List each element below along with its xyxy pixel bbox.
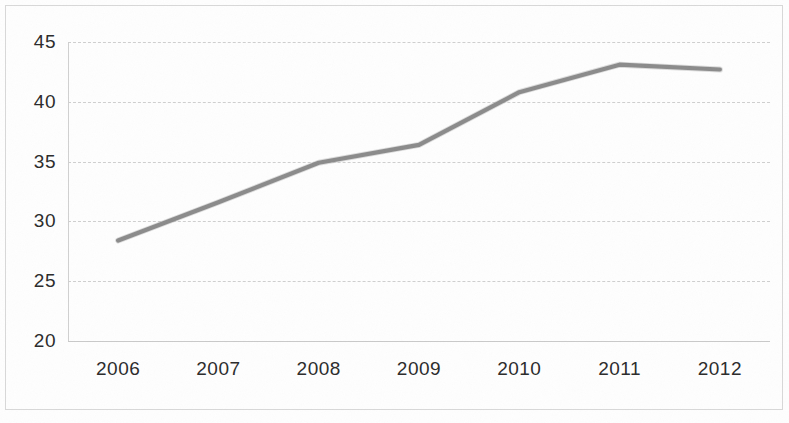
x-tick-label-2012: 2012	[675, 358, 765, 380]
x-tick-label-2010: 2010	[474, 358, 564, 380]
x-tick-label-2006: 2006	[73, 358, 163, 380]
y-axis-labels: 202530354045	[0, 0, 56, 423]
x-tick-label-2009: 2009	[374, 358, 464, 380]
series-line	[118, 65, 720, 241]
y-tick-label-45: 45	[10, 31, 56, 53]
x-tick-label-2007: 2007	[173, 358, 263, 380]
y-tick-label-30: 30	[10, 210, 56, 232]
series-svg	[68, 42, 770, 341]
series-line-halo	[118, 65, 720, 241]
chart-page: 202530354045 200620072008200920102011201…	[0, 0, 789, 423]
x-tick-label-2011: 2011	[575, 358, 665, 380]
y-tick-label-35: 35	[10, 151, 56, 173]
y-tick-label-25: 25	[10, 270, 56, 292]
plot-area	[68, 42, 770, 341]
y-tick-label-20: 20	[10, 330, 56, 352]
gridline-20	[68, 341, 770, 342]
line-chart: 202530354045 200620072008200920102011201…	[0, 0, 789, 423]
y-tick-label-40: 40	[10, 91, 56, 113]
x-tick-label-2008: 2008	[274, 358, 364, 380]
